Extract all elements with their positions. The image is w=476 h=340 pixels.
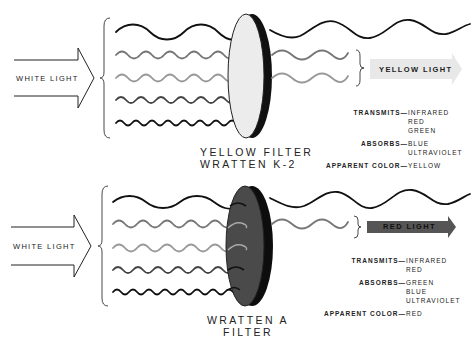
wave-red-out bbox=[272, 220, 348, 229]
transmits-value: INFRARED bbox=[408, 108, 449, 117]
filter-name-line2: WRATTEN K-2 bbox=[200, 158, 296, 170]
wave-green-out bbox=[272, 74, 348, 83]
yellow-light-label: YELLOW LIGHT bbox=[379, 65, 452, 74]
apparent-color-key: APPARENT COLOR— bbox=[326, 161, 408, 170]
transmits-value: RED bbox=[408, 117, 425, 126]
wave-red-out bbox=[272, 51, 348, 60]
absorbs-value: ULTRAVIOLET bbox=[406, 296, 460, 305]
wave-infrared-out bbox=[270, 190, 470, 208]
left-brace-icon bbox=[100, 18, 110, 138]
apparent-color-value: YELLOW bbox=[408, 161, 441, 170]
transmits-value: RED bbox=[406, 265, 423, 274]
wave-red bbox=[113, 221, 231, 228]
right-brace-icon bbox=[354, 216, 361, 238]
right-brace-icon bbox=[356, 50, 364, 86]
red-filter-name: WRATTEN A FILTER bbox=[200, 314, 296, 338]
wave-blue bbox=[113, 267, 233, 273]
white-light-label: WHITE LIGHT bbox=[16, 74, 79, 83]
filter-name-line2: FILTER bbox=[200, 326, 296, 338]
transmits-key: TRANSMITS— bbox=[354, 108, 408, 117]
left-brace-icon bbox=[98, 186, 108, 306]
apparent-color-key: APPARENT COLOR— bbox=[324, 309, 406, 318]
absorbs-value: BLUE bbox=[408, 139, 429, 148]
wave-green bbox=[113, 245, 231, 252]
red-light-label: RED LIGHT bbox=[383, 222, 436, 231]
wave-green bbox=[116, 75, 234, 82]
red-filter-panel: WHITE LIGHT RED LIGHT WRATTEN A FILTER T… bbox=[0, 170, 476, 340]
transmits-key: TRANSMITS— bbox=[352, 256, 406, 265]
wave-infrared-out bbox=[270, 20, 470, 38]
wave-infrared bbox=[113, 196, 236, 209]
absorbs-key: ABSORBS— bbox=[359, 278, 406, 287]
wave-ultraviolet bbox=[113, 290, 233, 295]
white-light-label: WHITE LIGHT bbox=[13, 242, 76, 251]
absorbs-value: GREEN bbox=[406, 278, 434, 287]
apparent-color-value: RED bbox=[406, 309, 423, 318]
absorbs-key: ABSORBS— bbox=[361, 139, 408, 148]
wave-red bbox=[116, 52, 234, 59]
absorbs-value: BLUE bbox=[406, 287, 427, 296]
filter-name-line1: WRATTEN A bbox=[200, 314, 296, 326]
yellow-filter-panel: WHITE LIGHT YELLOW LIGHT YELLOW FILTER W… bbox=[0, 0, 476, 170]
transmits-value: GREEN bbox=[408, 126, 436, 135]
wave-ultraviolet bbox=[116, 121, 236, 126]
wave-infrared bbox=[116, 25, 240, 40]
wave-blue bbox=[116, 97, 236, 103]
yellow-filter-disc-icon bbox=[228, 14, 272, 138]
filter-name-line1: YELLOW FILTER bbox=[200, 146, 296, 158]
transmits-value: INFRARED bbox=[406, 256, 447, 265]
red-filter-disc-icon bbox=[226, 186, 273, 306]
absorbs-value: ULTRAVIOLET bbox=[408, 148, 462, 157]
yellow-filter-name: YELLOW FILTER WRATTEN K-2 bbox=[200, 146, 296, 170]
